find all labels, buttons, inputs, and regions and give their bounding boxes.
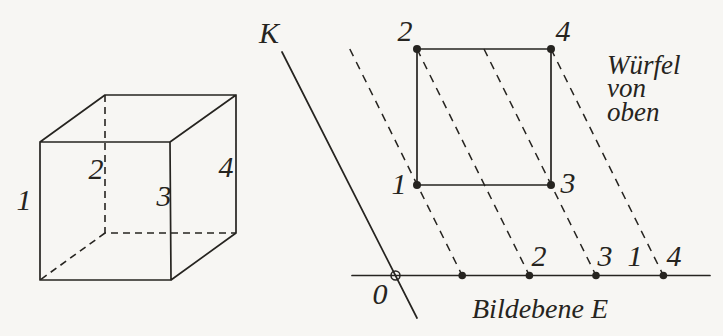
cube-solid-edges [40,95,236,280]
cube-edge-label-4: 4 [219,150,234,183]
image-line-label-2: 2 [532,239,547,272]
projected-point-dot-2 [526,272,534,280]
projected-point-dot-1 [458,272,466,280]
square-corner-dot-2 [413,45,421,53]
top-view-square [417,49,551,185]
top-view-projection: K 2 4 1 3 0 [258,14,710,324]
figure-canvas: 1 2 3 4 K 2 4 1 3 [0,0,723,336]
top-view-caption-line-3: oben [607,97,659,127]
projected-point-dot-4 [660,272,668,280]
image-line-label-3: 3 [597,239,613,272]
cube-edge-label-1: 1 [17,183,32,216]
image-line-label-1: 1 [628,239,643,272]
direction-line-label: K [258,16,281,49]
square-corner-label-4: 4 [556,14,571,47]
oblique-cube-view: 1 2 3 4 [17,95,237,280]
cube-edge-label-3: 3 [156,179,172,212]
cube-hidden-edges [40,95,236,280]
projection-ray-2 [417,49,529,276]
square-corner-label-2: 2 [398,14,413,47]
square-corner-dot-1 [413,181,421,189]
square-corner-dot-4 [547,45,555,53]
projected-point-dot-3 [592,272,600,280]
projection-diagram-svg: 1 2 3 4 K 2 4 1 3 [0,0,723,336]
square-corner-dot-3 [547,181,555,189]
square-corner-label-3: 3 [560,166,576,199]
cube-edge-label-2: 2 [89,152,104,185]
origin-label: 0 [373,277,388,310]
image-plane-label: Bildebene E [472,293,608,324]
projection-ray-1 [350,49,462,276]
square-corner-label-1: 1 [392,167,407,200]
image-line-label-4: 4 [667,239,682,272]
